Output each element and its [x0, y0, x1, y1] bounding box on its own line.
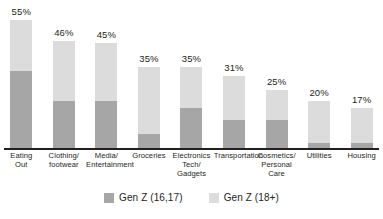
bar-segment-gen-z-18plus[interactable] [266, 90, 288, 120]
bar-value-label: 45% [85, 29, 128, 40]
bar-group: 35% [128, 6, 171, 148]
bar-value-label: 20% [298, 87, 341, 98]
bar-segment-gen-z-18plus[interactable] [95, 43, 117, 101]
bar-group: 25% [255, 6, 298, 148]
bar-segment-gen-z-18plus[interactable] [223, 76, 245, 120]
bar-group: 35% [170, 6, 213, 148]
legend-swatch-icon [104, 193, 114, 203]
legend-label: Gen Z (18+) [224, 192, 279, 203]
plot-area: 55%46%45%35%35%31%25%20%17% [0, 6, 383, 148]
bar-segment-gen-z-18plus[interactable] [308, 101, 330, 143]
legend-label: Gen Z (16,17) [119, 192, 183, 203]
bar-stack[interactable] [53, 41, 75, 148]
bar-segment-gen-z-16-17[interactable] [180, 108, 202, 148]
bar-series-container: 55%46%45%35%35%31%25%20%17% [0, 6, 383, 148]
bar-value-label: 35% [170, 53, 213, 64]
bar-stack[interactable] [138, 67, 160, 148]
bar-group: 45% [85, 6, 128, 148]
bar-group: 31% [213, 6, 256, 148]
bar-stack[interactable] [180, 67, 202, 148]
bar-value-label: 31% [213, 62, 256, 73]
bar-segment-gen-z-16-17[interactable] [10, 71, 32, 148]
legend-swatch-icon [209, 193, 219, 203]
bar-segment-gen-z-16-17[interactable] [223, 120, 245, 148]
x-axis-line [4, 148, 379, 150]
bar-segment-gen-z-16-17[interactable] [95, 101, 117, 148]
chart-legend: Gen Z (16,17)Gen Z (18+) [0, 192, 383, 203]
bar-stack[interactable] [266, 90, 288, 148]
legend-item[interactable]: Gen Z (16,17) [104, 192, 183, 203]
bar-segment-gen-z-16-17[interactable] [53, 101, 75, 148]
x-axis-tick-label: Groceries [128, 151, 171, 178]
bar-segment-gen-z-18plus[interactable] [351, 108, 373, 143]
bar-value-label: 46% [43, 27, 86, 38]
x-axis-tick-label: Media/Entertainment [85, 151, 128, 178]
stacked-bar-chart: 55%46%45%35%35%31%25%20%17% EatingOutClo… [0, 0, 383, 219]
bar-segment-gen-z-18plus[interactable] [53, 41, 75, 102]
x-axis-tick-label: Utilities [298, 151, 341, 178]
bar-group: 17% [340, 6, 383, 148]
x-axis-tick-label: ElectronicsTech/Gadgets [170, 151, 213, 178]
bar-group: 46% [43, 6, 86, 148]
bar-stack[interactable] [95, 43, 117, 148]
bar-segment-gen-z-18plus[interactable] [138, 67, 160, 134]
x-axis-category-labels: EatingOutClothing/footwearMedia/Entertai… [0, 151, 383, 178]
bar-stack[interactable] [10, 20, 32, 148]
x-axis-tick-label: Clothing/footwear [43, 151, 86, 178]
bar-segment-gen-z-18plus[interactable] [180, 67, 202, 109]
bar-segment-gen-z-16-17[interactable] [138, 134, 160, 148]
bar-segment-gen-z-18plus[interactable] [10, 20, 32, 71]
bar-value-label: 25% [255, 76, 298, 87]
bar-value-label: 17% [340, 94, 383, 105]
legend-item[interactable]: Gen Z (18+) [209, 192, 279, 203]
bar-value-label: 55% [0, 6, 43, 17]
bar-stack[interactable] [308, 101, 330, 148]
bar-value-label: 35% [128, 53, 171, 64]
bar-stack[interactable] [223, 76, 245, 148]
x-axis-tick-label: Transportation [213, 151, 256, 178]
x-axis-tick-label: Cosmetics/PersonalCare [255, 151, 298, 178]
x-axis-tick-label: EatingOut [0, 151, 43, 178]
bar-group: 20% [298, 6, 341, 148]
bar-group: 55% [0, 6, 43, 148]
bar-segment-gen-z-16-17[interactable] [266, 120, 288, 148]
x-axis-tick-label: Housing [340, 151, 383, 178]
bar-stack[interactable] [351, 108, 373, 148]
